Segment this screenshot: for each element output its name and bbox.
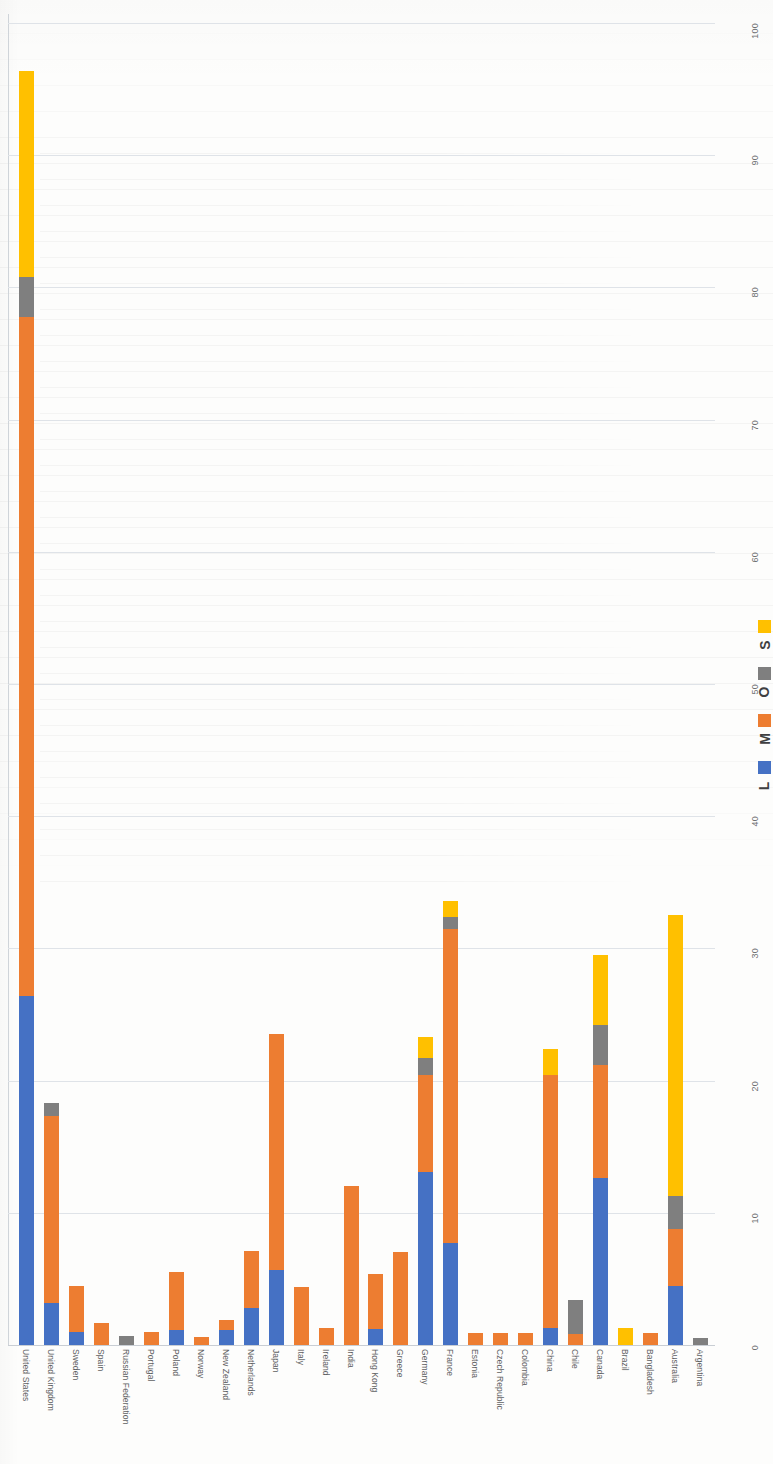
bar-segment-M [269,1034,284,1269]
tick-label: 30 [750,948,760,958]
bar-segment-M [368,1274,383,1330]
legend-item-M[interactable]: M [758,714,771,747]
category-label: New Zealand [219,1349,234,1359]
category-label: Australia [668,1349,683,1359]
bar-germany[interactable] [418,1037,433,1345]
bar-brazil[interactable] [618,1328,633,1345]
category-label: Russian Federation [119,1349,134,1359]
category-label: Spain [94,1349,109,1359]
bar-new-zealand[interactable] [219,1320,234,1345]
bar-estonia[interactable] [468,1333,483,1345]
bar-canada[interactable] [593,955,608,1345]
legend-label-O: O [756,687,772,698]
bar-china[interactable] [543,1049,558,1345]
legend-label-S: S [757,640,773,649]
tick-label: 80 [750,287,760,297]
legend-item-S[interactable]: S [758,620,771,653]
bar-segment-L [593,1178,608,1345]
bar-segment-M [568,1334,583,1345]
bar-united-states[interactable] [19,71,34,1345]
bar-segment-L [269,1270,284,1345]
bar-segment-M [219,1320,234,1331]
category-label: Germany [418,1349,433,1359]
bar-japan[interactable] [269,1034,284,1345]
bar-segment-L [169,1330,184,1345]
chart-legend: LMOS [758,620,771,794]
bar-segment-L [443,1243,458,1345]
bar-italy[interactable] [294,1287,309,1345]
bar-segment-M [418,1075,433,1172]
bar-segment-M [593,1065,608,1179]
bar-poland[interactable] [169,1272,184,1345]
bar-france[interactable] [443,901,458,1345]
category-label: Bangladesh [643,1349,658,1359]
category-label: Netherlands [244,1349,259,1359]
bar-segment-S [593,955,608,1025]
bar-segment-M [344,1186,359,1345]
bar-segment-M [319,1328,334,1345]
bar-segment-M [468,1333,483,1345]
bar-czech-republic[interactable] [493,1333,508,1345]
legend-item-L[interactable]: L [758,761,771,794]
bar-segment-S [668,915,683,1195]
category-label: Portugal [144,1349,159,1359]
bar-segment-M [144,1332,159,1345]
bar-segment-M [44,1116,59,1302]
bar-argentina[interactable] [693,1338,708,1345]
category-label: Ireland [319,1349,334,1359]
category-label: Poland [169,1349,184,1359]
bar-segment-M [443,929,458,1244]
bar-australia[interactable] [668,915,683,1345]
legend-label-M: M [756,733,772,745]
bar-segment-O [19,277,34,317]
bar-segment-S [418,1037,433,1058]
bar-colombia[interactable] [518,1333,533,1345]
bar-segment-M [294,1287,309,1345]
bar-hong-kong[interactable] [368,1274,383,1345]
bar-norway[interactable] [194,1337,209,1345]
bar-segment-L [668,1286,683,1345]
category-label: France [443,1349,458,1359]
bar-india[interactable] [344,1186,359,1345]
bar-sweden[interactable] [69,1286,84,1345]
category-axis-labels: United StatesUnited KingdomSwedenSpainRu… [8,1345,715,1464]
bar-segment-S [443,901,458,917]
bar-segment-S [618,1328,633,1345]
legend-item-O[interactable]: O [758,667,771,700]
bar-segment-M [668,1229,683,1286]
category-label: Czech Republic [493,1349,508,1359]
bar-segment-M [493,1333,508,1345]
bar-segment-L [219,1330,234,1345]
bar-segment-M [94,1323,109,1345]
category-label: Chile [568,1349,583,1359]
bar-spain[interactable] [94,1323,109,1345]
category-label: Canada [593,1349,608,1359]
bar-segment-L [418,1172,433,1345]
tick-label: 70 [750,420,760,430]
tick-label: 40 [750,816,760,826]
bar-chile[interactable] [568,1300,583,1345]
bar-united-kingdom[interactable] [44,1103,59,1345]
bar-segment-M [393,1252,408,1345]
bar-netherlands[interactable] [244,1251,259,1345]
tick-label: 100 [750,23,760,39]
category-label: India [344,1349,359,1359]
category-label: Colombia [518,1349,533,1359]
bar-segment-O [44,1103,59,1116]
bar-ireland[interactable] [319,1328,334,1345]
bar-segment-M [643,1333,658,1345]
bar-group [8,0,715,1345]
bar-bangladesh[interactable] [643,1333,658,1345]
bar-portugal[interactable] [144,1332,159,1345]
tick-label: 10 [750,1213,760,1223]
category-label: Japan [269,1349,284,1359]
bar-segment-S [543,1049,558,1075]
bar-russian-federation[interactable] [119,1336,134,1345]
category-label: Argentina [693,1349,708,1359]
category-label: United Kingdom [44,1349,59,1359]
bar-greece[interactable] [393,1252,408,1345]
bar-segment-M [518,1333,533,1345]
tick-label: 0 [750,1345,760,1350]
bar-segment-M [194,1337,209,1345]
bar-segment-O [668,1196,683,1229]
